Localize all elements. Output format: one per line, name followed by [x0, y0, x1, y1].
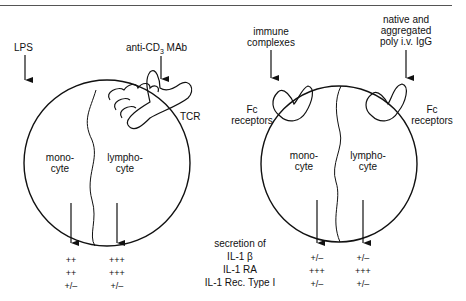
label-line: aggregated	[374, 25, 438, 36]
label-line: poly i.v. IgG	[374, 36, 438, 47]
legend-row: IL-1 β	[180, 250, 300, 263]
cell-label-line: cyte	[40, 163, 80, 174]
cell-label-line: cyte	[102, 163, 148, 174]
fc-receptors-right-label: Fc receptors	[408, 104, 456, 126]
value: +/–	[104, 280, 130, 293]
right-monocyte-label: mono- cyte	[284, 150, 324, 172]
value: +/–	[350, 278, 376, 291]
label-line: receptors	[408, 115, 456, 126]
value: ++	[58, 267, 84, 280]
value: ++	[58, 254, 84, 267]
value: +/–	[304, 252, 330, 265]
value: +++	[304, 265, 330, 278]
secretion-legend: secretion of IL-1 β IL-1 RA IL-1 Rec. Ty…	[180, 237, 300, 289]
value: +++	[104, 267, 130, 280]
value: +++	[104, 254, 130, 267]
left-lymphocyte-values: +++ +++ +/–	[104, 254, 130, 293]
value: +/–	[350, 252, 376, 265]
anticd3-tail: MAb	[164, 42, 187, 53]
left-lymphocyte-label: lympho- cyte	[102, 152, 148, 174]
anticd3-label: anti-CD3 MAb	[126, 42, 187, 57]
cell-label-line: cyte	[344, 161, 392, 172]
left-monocyte-values: ++ ++ +/–	[58, 254, 84, 293]
label-line: immune	[246, 26, 296, 37]
right-lymphocyte-values: +/– +++ +/–	[350, 252, 376, 291]
cell-label-line: cyte	[284, 161, 324, 172]
right-lymphocyte-label: lympho- cyte	[344, 150, 392, 172]
cell-label-line: mono-	[284, 150, 324, 161]
lps-label: LPS	[14, 42, 33, 53]
left-monocyte-label: mono- cyte	[40, 152, 80, 174]
cell-label-line: lympho-	[344, 150, 392, 161]
value: +/–	[58, 280, 84, 293]
immune-complexes-label: immune complexes	[246, 26, 296, 48]
cell-label-line: lympho-	[102, 152, 148, 163]
right-monocyte-values: +/– +++ +/–	[304, 252, 330, 291]
legend-row: IL-1 Rec. Type I	[180, 276, 300, 289]
legend-title: secretion of	[180, 237, 300, 250]
tcr-label: TCR	[180, 111, 201, 122]
label-line: Fc	[408, 104, 456, 115]
value: +/–	[304, 278, 330, 291]
label-line: native and	[374, 14, 438, 25]
value: +++	[350, 265, 376, 278]
anticd3-base: anti-CD	[126, 42, 160, 53]
fc-receptors-left-label: Fc receptors	[228, 104, 276, 126]
label-line: complexes	[246, 37, 296, 48]
cell-label-line: mono-	[40, 152, 80, 163]
legend-row: IL-1 RA	[180, 263, 300, 276]
label-line: Fc	[228, 104, 276, 115]
label-line: receptors	[228, 115, 276, 126]
ivig-label: native and aggregated poly i.v. IgG	[374, 14, 438, 47]
